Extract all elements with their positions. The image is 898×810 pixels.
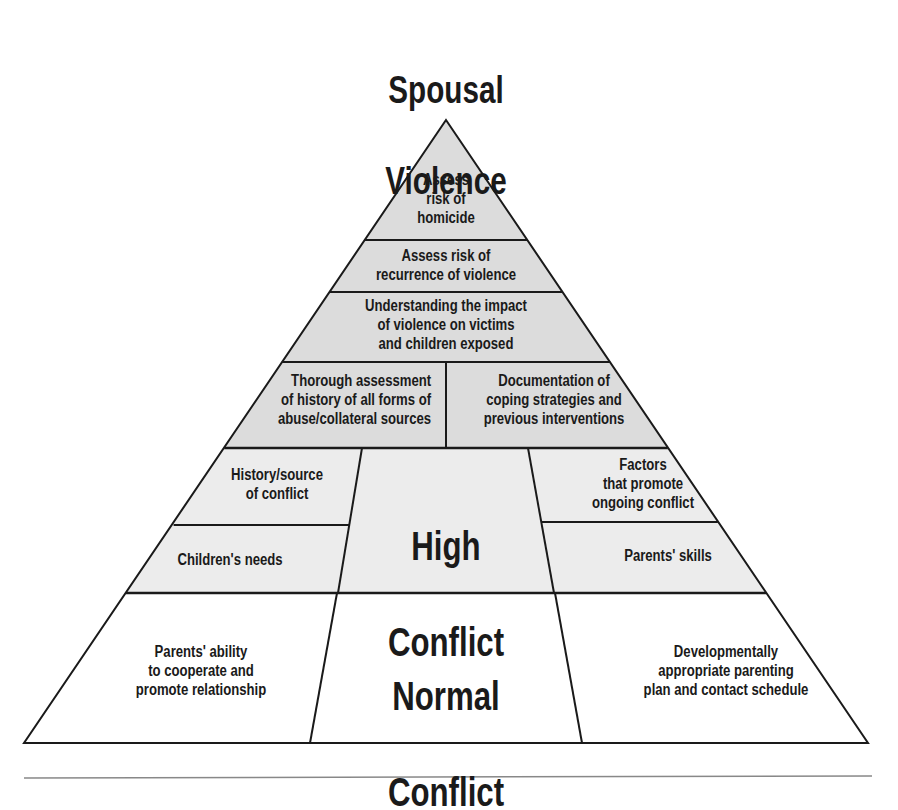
- level-assessment-right: Documentation of coping strategies and p…: [462, 371, 646, 429]
- normal-left: Parents' ability to cooperate and promot…: [99, 642, 304, 700]
- level-impact: Understanding the impact of violence on …: [326, 296, 565, 354]
- high-left-top: History/source of conflict: [207, 465, 346, 503]
- high-label-line1: High: [411, 524, 480, 568]
- normal-label-line1: Normal: [392, 674, 499, 718]
- normal-conflict-label: Normal Conflict: [368, 624, 524, 810]
- title-line1: Spousal: [388, 69, 503, 111]
- normal-label-line2: Conflict: [388, 770, 504, 810]
- high-right-top: Factors that promote ongoing conflict: [565, 455, 721, 513]
- level-recurrence-risk: Assess risk of recurrence of violence: [359, 246, 533, 284]
- level-homicide-risk: Assess risk of homicide: [389, 170, 504, 228]
- level-assessment-left: Thorough assessment of history of all fo…: [259, 371, 431, 429]
- high-left-bottom: Children's needs: [148, 550, 312, 569]
- normal-right: Developmentally appropriate parenting pl…: [628, 642, 825, 700]
- high-right-bottom: Parents' skills: [586, 546, 750, 565]
